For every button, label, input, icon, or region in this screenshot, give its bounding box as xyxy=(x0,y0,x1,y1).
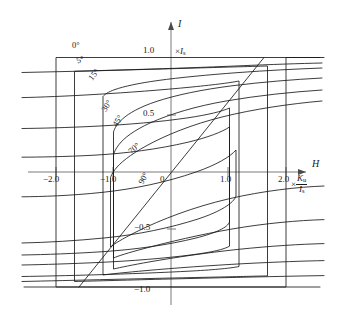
tick-label-y-neg1: −1.0 xyxy=(134,284,150,294)
tick-label-y-neg05: −0.5 xyxy=(134,222,150,232)
x-unit-fraction: Ku Is xyxy=(296,174,307,195)
curve-label-0deg: 0° xyxy=(72,40,80,50)
hysteresis-loop-figure: I H ×Is × Ku Is −2.0 −1.0 1.0 2.0 1.0 0.… xyxy=(0,0,344,325)
x-unit-denominator-sub: s xyxy=(302,187,305,194)
axis-arrowheads xyxy=(168,22,306,175)
tick-label-x-pos1: 1.0 xyxy=(220,174,231,184)
origin-label: 0 xyxy=(160,174,165,184)
y-unit-subscript: s xyxy=(183,49,186,56)
tick-label-y-pos05: 0.5 xyxy=(143,108,154,118)
x-axis-unit: × Ku Is xyxy=(291,174,307,195)
tick-label-y-pos1: 1.0 xyxy=(143,45,154,55)
tick-label-x-pos2: 2.0 xyxy=(278,174,289,184)
tick-label-x-neg2: −2.0 xyxy=(43,174,59,184)
x-axis-label: H xyxy=(312,158,319,169)
x-unit-numerator-sub: u xyxy=(303,176,306,183)
tick-label-x-neg1: −1.0 xyxy=(100,174,116,184)
hysteresis-curves-plot xyxy=(0,0,344,325)
y-axis-arrow xyxy=(168,22,174,30)
y-axis-label: I xyxy=(178,18,181,29)
y-axis-unit: ×Is xyxy=(175,46,186,56)
